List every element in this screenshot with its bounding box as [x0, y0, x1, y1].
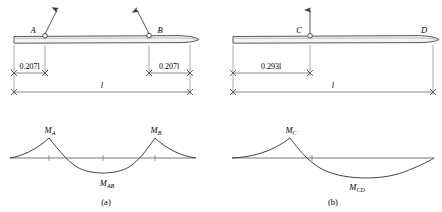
engineering-figure: A B 0.207l 0.207l [0, 0, 442, 212]
moment-diagram-b: MC MCD [232, 125, 434, 193]
support-label-b: B [157, 25, 162, 35]
dimension-a-span: l [14, 80, 190, 92]
moment-label-mb: MB [150, 125, 162, 136]
moment-diagram-a: MA MB MAB [10, 125, 196, 189]
support-circle-b [147, 33, 152, 38]
support-circle-a [43, 34, 48, 39]
dimension-a-right: 0.207l [149, 62, 190, 73]
moment-label-mab: MAB [99, 178, 115, 189]
support-a [43, 10, 57, 38]
dimension-label-a-right: 0.207l [159, 62, 180, 71]
dimension-label-b-span: l [332, 80, 335, 90]
support-label-d: D [420, 25, 428, 35]
panel-b: C D 0.293l l [232, 10, 439, 207]
figure-canvas: A B 0.207l 0.207l [0, 0, 442, 212]
support-circle-c [308, 34, 313, 39]
beam-a [14, 36, 199, 44]
support-b [137, 10, 151, 38]
moment-label-mc: MC [284, 125, 297, 136]
dimension-a-left: 0.207l [14, 62, 45, 73]
load-arrow-b [137, 10, 149, 34]
dimension-b-span: l [233, 80, 433, 92]
moment-label-ma: MA [44, 125, 56, 136]
panel-caption-a: (a) [101, 197, 111, 207]
dimension-b-left: 0.293l [233, 62, 310, 73]
support-label-a: A [29, 25, 36, 35]
dimension-label-a-span: l [101, 80, 104, 90]
beam-outline-a [14, 36, 199, 44]
dimension-label-b-left: 0.293l [261, 62, 282, 71]
beam-b [233, 36, 439, 44]
load-arrow-a [45, 10, 57, 34]
support-c [308, 10, 313, 38]
support-label-c: C [296, 25, 302, 35]
dimension-label-a-left: 0.207l [19, 62, 40, 71]
beam-outline-b [233, 36, 439, 44]
panel-caption-b: (b) [328, 197, 338, 207]
panel-a: A B 0.207l 0.207l [10, 10, 199, 207]
moment-label-mcd: MCD [348, 182, 365, 193]
